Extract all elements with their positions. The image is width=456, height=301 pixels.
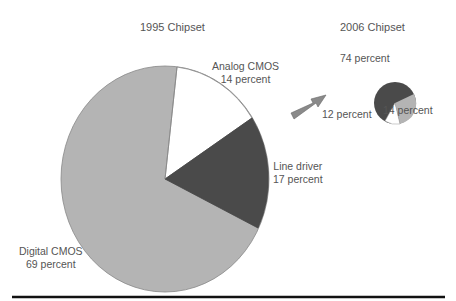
pie-1995 — [61, 66, 269, 292]
label-74-percent: 74 percent — [340, 52, 390, 65]
arrow-icon — [291, 95, 326, 119]
title-1995: 1995 Chipset — [140, 21, 205, 33]
title-2006: 2006 Chipset — [340, 21, 405, 33]
label-line-driver: Line driver 17 percent — [273, 160, 323, 186]
label-14-percent: 14 percent — [383, 104, 433, 117]
label-12-percent: 12 percent — [322, 108, 372, 121]
label-digital-cmos: Digital CMOS 69 percent — [19, 245, 83, 271]
label-analog-cmos: Analog CMOS 14 percent — [212, 60, 279, 86]
